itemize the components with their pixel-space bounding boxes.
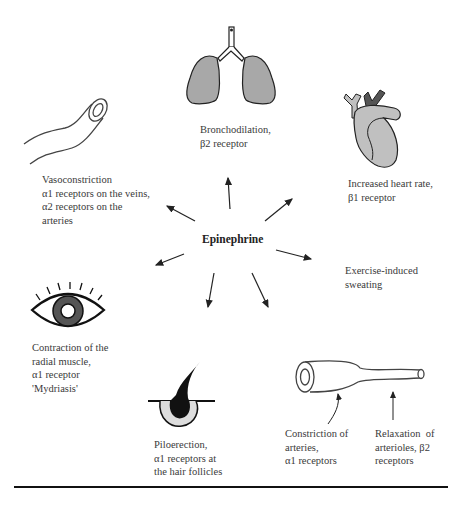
center-label-epinephrine: Epinephrine (202, 233, 263, 245)
label-heart-rate: Increased heart rate, β1 receptor (348, 177, 433, 204)
heart-icon (344, 90, 400, 167)
label-piloerection: Piloerection, α1 receptors at the hair f… (154, 438, 222, 479)
label-vasoconstriction: Vasoconstriction α1 receptors on the vei… (42, 173, 150, 227)
lungs-icon (187, 27, 275, 104)
label-bronchodilation: Bronchodilation, β2 receptor (200, 123, 271, 150)
hair-follicle-icon (148, 362, 215, 426)
label-mydriasis: Contraction of the radial muscle, α1 rec… (32, 341, 108, 395)
artery-arteriole-icon (296, 361, 424, 424)
bottom-rule-divider (14, 486, 448, 488)
label-sweating: Exercise-induced sweating (345, 264, 418, 291)
label-arteriole-relaxation: Relaxation of arterioles, β2 receptors (375, 427, 434, 468)
blood-vessel-icon (24, 96, 111, 164)
label-artery-constriction: Constriction of arteries, α1 receptors (285, 427, 348, 468)
eye-icon (32, 282, 104, 326)
